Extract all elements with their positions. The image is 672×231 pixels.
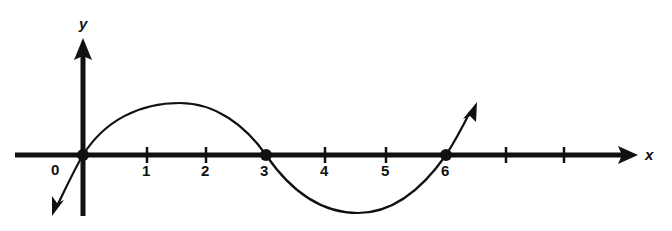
x-axis-label: x (644, 146, 654, 163)
curve-start-arrow-icon (52, 196, 64, 216)
tick-label-5: 5 (381, 162, 389, 179)
tick-label-3: 3 (260, 162, 268, 179)
y-axis-label: y (78, 15, 88, 32)
curve-end-arrow-icon (463, 102, 477, 122)
point-origin (77, 149, 89, 161)
y-axis (74, 38, 92, 216)
cubic-graph: y x 0 1 2 3 4 5 6 (0, 0, 672, 231)
tick-label-1: 1 (142, 162, 150, 179)
origin-label: 0 (51, 161, 59, 178)
point-x3 (260, 149, 272, 161)
tick-label-4: 4 (320, 162, 329, 179)
tick-label-6: 6 (441, 162, 449, 179)
tick-label-2: 2 (201, 162, 209, 179)
point-x6 (440, 149, 452, 161)
